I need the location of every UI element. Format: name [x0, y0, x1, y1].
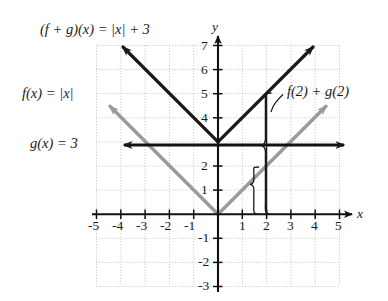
y-tick-neg1: -1: [198, 231, 209, 245]
y-tick-1: 1: [201, 183, 208, 197]
x-tick-5: 5: [335, 219, 342, 233]
y-tick-6: 6: [201, 63, 208, 77]
x-axis-label: x: [357, 207, 363, 221]
graph-figure: (f + g)(x) = |x| + 3 f(x) = |x| g(x) = 3…: [0, 0, 388, 301]
y-tick-5: 5: [201, 87, 208, 101]
x-tick-neg5: -5: [88, 219, 99, 233]
coordinate-axes: [92, 36, 352, 292]
x-tick-2: 2: [263, 219, 270, 233]
x-tick-neg1: -1: [184, 219, 195, 233]
y-axis-label: y: [212, 20, 218, 34]
annotation-leader-line: [271, 95, 283, 113]
x-tick-neg2: -2: [160, 219, 171, 233]
y-tick-4: 4: [201, 111, 208, 125]
y-tick-neg3: -3: [198, 279, 209, 293]
x-tick-1: 1: [239, 219, 246, 233]
x-tick-neg3: -3: [136, 219, 147, 233]
label-f2-plus-g2: f(2) + g(2): [287, 84, 349, 99]
label-f-plus-g: (f + g)(x) = |x| + 3: [40, 22, 150, 37]
y-tick-2: 2: [201, 159, 208, 173]
x-tick-3: 3: [287, 219, 294, 233]
y-tick-neg2: -2: [198, 255, 209, 269]
y-tick-7: 7: [201, 39, 208, 53]
x-tick-neg4: -4: [112, 219, 123, 233]
label-g: g(x) = 3: [30, 136, 78, 151]
x-tick-4: 4: [311, 219, 318, 233]
label-f: f(x) = |x|: [22, 86, 74, 101]
